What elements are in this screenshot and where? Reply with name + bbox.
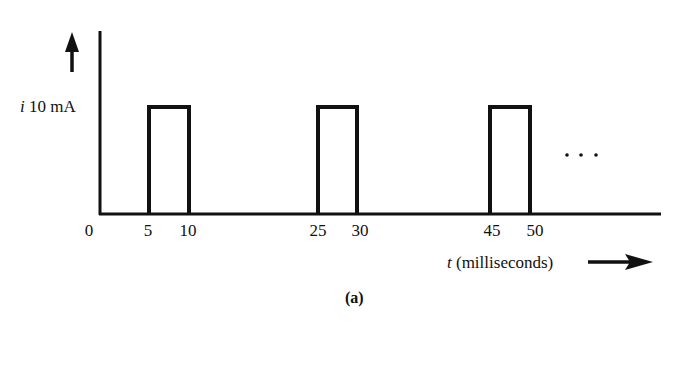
y-axis-label: i 10 mA [20,98,76,115]
pulse-chart [0,0,686,377]
x-axis-unit: (milliseconds) [456,253,553,272]
x-tick-0: 0 [85,222,94,239]
x-tick-5: 5 [144,222,153,239]
x-tick-25: 25 [310,222,327,239]
pulse-2 [318,107,357,214]
up-arrow-icon [65,32,79,72]
x-tick-45: 45 [484,222,501,239]
pulse-train [149,107,530,214]
x-tick-50: 50 [527,222,544,239]
pulse-3 [490,107,530,214]
right-arrow-icon [588,254,653,270]
figure-caption: (a) [345,290,364,306]
x-tick-10: 10 [180,222,197,239]
y-axis-value: 10 mA [29,97,76,116]
y-axis-variable: i [20,97,25,116]
x-axis-variable: t [447,253,452,272]
pulse-1 [149,107,189,214]
x-tick-30: 30 [352,222,369,239]
continuation-ellipsis-icon [565,153,598,157]
x-axis-label: t (milliseconds) [447,254,553,271]
